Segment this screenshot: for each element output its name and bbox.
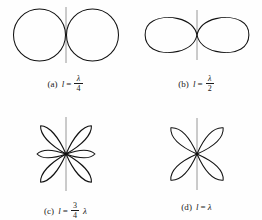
plot-area-c [0, 110, 131, 193]
polar-plot-four-lobe-diagonal [142, 116, 252, 192]
plot-area-d [131, 110, 262, 194]
antenna-pattern-figure: (a) l = λ 4 (b) l [0, 0, 262, 220]
lobe-right [197, 18, 249, 53]
panel-grid: (a) l = λ 4 (b) l [0, 0, 262, 220]
lobe-upper-left [37, 122, 69, 156]
lobe-left [13, 9, 65, 61]
caption-equals-c: = [63, 207, 68, 216]
plot-area-a [0, 0, 131, 68]
lobe-lower-right [193, 150, 227, 184]
caption-tag-b: (b) [178, 80, 189, 89]
caption-fraction-b: λ 2 [206, 75, 214, 93]
lobe-upper-right [62, 122, 94, 156]
panel-d: (d) l = λ [131, 110, 262, 220]
lobe-lower-left [167, 150, 201, 184]
polar-plot-two-tangent-circles [6, 4, 126, 66]
caption-tag-a: (a) [47, 80, 57, 89]
caption-trailing-d: λ [208, 203, 212, 212]
polar-plot-six-lobe-rosette [11, 116, 121, 192]
caption-variable-d: l [196, 203, 199, 212]
fraction-denominator-c: 4 [71, 211, 79, 220]
caption-c: (c) l = 3 4 λ [44, 202, 87, 220]
lobe-upper-right [193, 124, 227, 158]
caption-equals-a: = [66, 80, 71, 89]
lobe-lower-right [62, 150, 94, 184]
caption-tag-c: (c) [44, 207, 54, 216]
panel-b: (b) l = λ 2 [131, 0, 262, 110]
lobe-upper-left [167, 124, 201, 158]
caption-fraction-a: λ 4 [74, 75, 82, 93]
lobe-lower-left [37, 150, 69, 184]
lobe-left [145, 18, 197, 53]
panel-a: (a) l = λ 4 [0, 0, 131, 110]
caption-tag-d: (d) [181, 203, 192, 212]
fraction-numerator-b: λ [206, 75, 214, 84]
panel-c: (c) l = 3 4 λ [0, 110, 131, 220]
caption-b: (b) l = λ 2 [178, 75, 215, 93]
caption-variable-c: l [58, 207, 61, 216]
fraction-denominator-a: 4 [74, 84, 82, 93]
caption-d: (d) l = λ [181, 203, 212, 212]
caption-fraction-c: 3 4 [71, 202, 79, 220]
caption-variable-a: l [62, 80, 65, 89]
caption-equals-b: = [198, 80, 203, 89]
caption-a: (a) l = λ 4 [47, 75, 83, 93]
polar-plot-horizontal-figure-eight [137, 4, 257, 66]
fraction-numerator-c: 3 [71, 202, 79, 211]
caption-trailing-c: λ [83, 207, 87, 216]
lobe-right [66, 9, 118, 61]
fraction-denominator-b: 2 [206, 84, 214, 93]
plot-area-b [131, 0, 262, 68]
fraction-numerator-a: λ [75, 75, 83, 84]
caption-variable-b: l [193, 80, 196, 89]
caption-equals-d: = [201, 203, 206, 212]
